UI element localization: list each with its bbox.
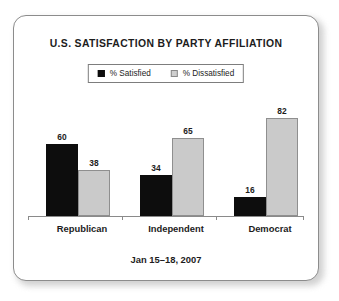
category-label-independent: Independent [134,223,218,234]
axis-tick-1 [122,216,123,220]
gray-square-icon [171,70,178,77]
bar-independent-satisfied[interactable] [140,175,172,216]
plot-area: 60 38 34 65 [28,100,304,216]
category-label-democrat: Democrat [228,223,312,234]
x-axis-labels: Republican Independent Democrat [28,223,304,239]
bar-value-republican-dissatisfied: 38 [78,158,110,168]
screenshot-root: U.S. SATISFACTION BY PARTY AFFILIATION %… [0,0,339,301]
bar-democrat-dissatisfied[interactable] [266,118,298,216]
bar-value-independent-dissatisfied: 65 [172,126,204,136]
legend-label-satisfied: % Satisfied [110,69,151,78]
legend-item-dissatisfied[interactable]: % Dissatisfied [171,69,234,78]
bar-group-republican: 60 38 [46,100,124,216]
bar-value-independent-satisfied: 34 [140,163,172,173]
x-axis-line [28,216,304,217]
chart-card: U.S. SATISFACTION BY PARTY AFFILIATION %… [13,15,319,281]
bar-republican-satisfied[interactable] [46,144,78,216]
legend-item-satisfied[interactable]: % Satisfied [98,69,151,78]
chart-legend: % Satisfied % Dissatisfied [88,64,244,83]
chart-title: U.S. SATISFACTION BY PARTY AFFILIATION [14,38,318,49]
axis-tick-start [28,216,29,220]
bar-value-democrat-dissatisfied: 82 [266,106,298,116]
bar-group-independent: 34 65 [140,100,218,216]
bar-value-democrat-satisfied: 16 [234,185,266,195]
chart-date-caption: Jan 15–18, 2007 [14,254,318,265]
bar-value-republican-satisfied: 60 [46,132,78,142]
axis-tick-end [303,216,304,220]
axis-tick-2 [216,216,217,220]
bar-democrat-satisfied[interactable] [234,197,266,216]
category-label-republican: Republican [40,223,124,234]
bar-independent-dissatisfied[interactable] [172,138,204,216]
bar-group-democrat: 16 82 [234,100,312,216]
legend-label-dissatisfied: % Dissatisfied [183,69,234,78]
black-square-icon [98,70,105,77]
bar-republican-dissatisfied[interactable] [78,170,110,216]
